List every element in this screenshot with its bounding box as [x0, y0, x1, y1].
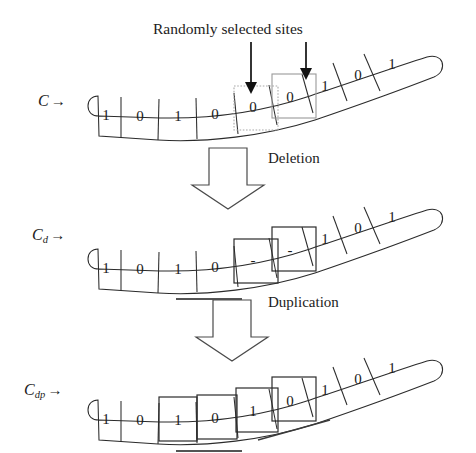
- cell-c-3: 0: [211, 106, 219, 122]
- diagram-vector-layer: 1 0 1 0 0 0 1 0 1: [0, 0, 476, 453]
- cell-cd-7: 0: [354, 220, 362, 236]
- cell-c-2: 1: [174, 108, 182, 124]
- cell-cd-0: 1: [102, 260, 110, 276]
- cell-cd-1: 0: [136, 261, 144, 277]
- cell-c-8: 1: [388, 56, 396, 72]
- cell-cdp-6: 1: [321, 382, 329, 398]
- cell-cd-3: 0: [211, 259, 219, 275]
- cell-c-5: 0: [286, 89, 294, 105]
- cell-cdp-5: 0: [286, 393, 294, 409]
- cell-cd-8: 1: [388, 209, 396, 225]
- cell-cdp-2: 1: [174, 412, 182, 428]
- cell-c-1: 0: [136, 108, 144, 124]
- cell-cdp-1: 0: [136, 412, 144, 428]
- cell-cdp-8: 1: [388, 360, 396, 376]
- cell-c-6: 1: [321, 78, 329, 94]
- cell-cd-6: 1: [321, 231, 329, 247]
- cell-c-7: 0: [354, 67, 362, 83]
- deletion-block-arrow: [192, 148, 264, 209]
- figure-canvas: C→ Cd→ Cdp→ Randomly selected sites Dele…: [0, 0, 476, 453]
- cell-cdp-7: 0: [354, 371, 362, 387]
- cell-cd-4: -: [251, 252, 256, 268]
- chromosome-c: 1 0 1 0 0 0 1 0 1: [88, 54, 443, 141]
- cell-c-0: 1: [102, 107, 110, 123]
- cell-cdp-0: 1: [102, 411, 110, 427]
- cell-c-4: 0: [249, 99, 257, 115]
- chromosome-cdp: 1 0 1 0 1 0 1 0 1: [88, 358, 443, 451]
- cell-cd-5: -: [288, 242, 293, 258]
- cell-cd-2: 1: [174, 261, 182, 277]
- chromosome-cd: 1 0 1 0 - - 1 0 1: [88, 207, 443, 299]
- cell-cdp-3: 0: [211, 410, 219, 426]
- duplication-block-arrow: [196, 300, 268, 361]
- cell-cdp-4: 1: [249, 403, 257, 419]
